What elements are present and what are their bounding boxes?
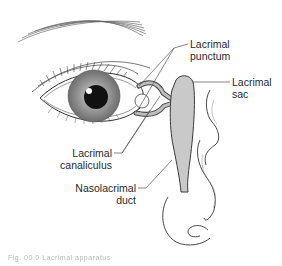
nostril-inner xyxy=(188,226,208,237)
caruncle xyxy=(135,94,149,108)
nasal-fold-upper xyxy=(205,90,219,165)
pupil-highlight xyxy=(86,88,92,94)
lacrimal-diagram: Lacrimal punctum Lacrimal sac Lacrimal c… xyxy=(0,0,282,266)
nostril-outer xyxy=(163,197,210,245)
lacrimal-sac-duct xyxy=(170,76,194,192)
anatomy-illustration xyxy=(0,0,282,266)
label-nasolacrimal-duct: Nasolacrimal duct xyxy=(66,182,136,206)
nasal-fold-lower xyxy=(198,140,216,220)
eyebrow xyxy=(18,21,146,42)
label-lacrimal-canaliculus: Lacrimal canaliculus xyxy=(52,147,112,171)
label-lacrimal-punctum: Lacrimal punctum xyxy=(190,38,230,62)
figure-caption: Fig. 00.0 Lacrimal apparatus xyxy=(8,254,111,261)
label-lacrimal-sac: Lacrimal sac xyxy=(232,76,272,100)
